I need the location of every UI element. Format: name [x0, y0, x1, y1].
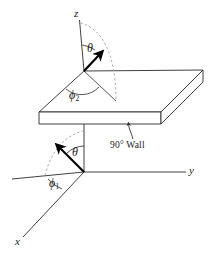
phi1-label: ϕ1: [49, 177, 59, 190]
wall-label: 90° Wall: [110, 141, 145, 151]
lower-theta-label: θ: [72, 146, 78, 158]
phi2-label: ϕ2: [69, 89, 79, 102]
diagram-svg: [0, 0, 212, 258]
wall-slab-front-face: [39, 112, 161, 124]
figure-container: z y x θ θ ϕ2 ϕ1 90° Wall: [0, 0, 212, 258]
wall-leader-arrow: [129, 124, 134, 139]
x-axis-label: x: [15, 236, 20, 247]
lower-plane-reference-line: [12, 172, 84, 179]
phi2-subscript: 2: [75, 94, 79, 103]
wall-slab: [39, 70, 203, 124]
upper-theta-arrow: [84, 54, 100, 71]
y-axis-label: y: [189, 165, 194, 176]
z-axis-label: z: [74, 8, 78, 19]
upper-theta-label: θ: [87, 42, 93, 54]
phi1-subscript: 1: [55, 182, 59, 191]
